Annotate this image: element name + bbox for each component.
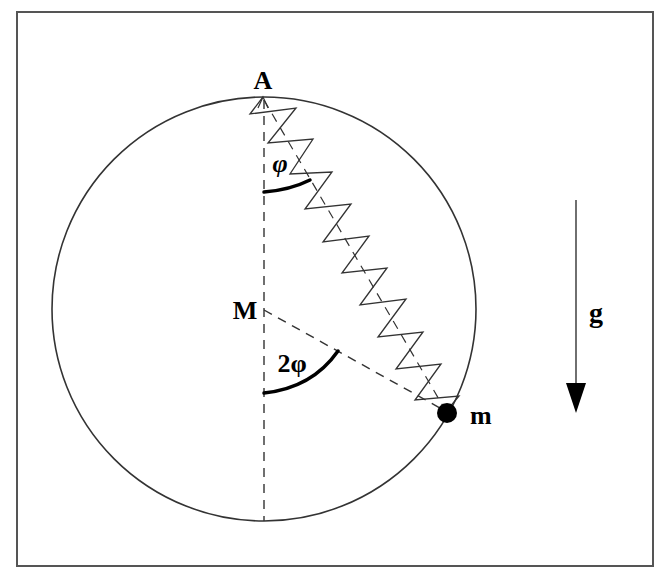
label-point-a: A — [254, 66, 273, 95]
label-mass-m: m — [470, 401, 492, 430]
mass-point — [437, 403, 457, 423]
angle-arc-phi — [264, 180, 310, 192]
spring-ring-diagram: A M m g φ 2φ — [0, 0, 669, 574]
label-angle-2phi: 2φ — [277, 349, 306, 378]
label-center-m: M — [233, 296, 258, 325]
label-angle-phi: φ — [272, 149, 287, 178]
frame-border — [17, 12, 653, 566]
gravity-arrowhead — [566, 383, 586, 413]
label-gravity-g: g — [589, 297, 603, 328]
